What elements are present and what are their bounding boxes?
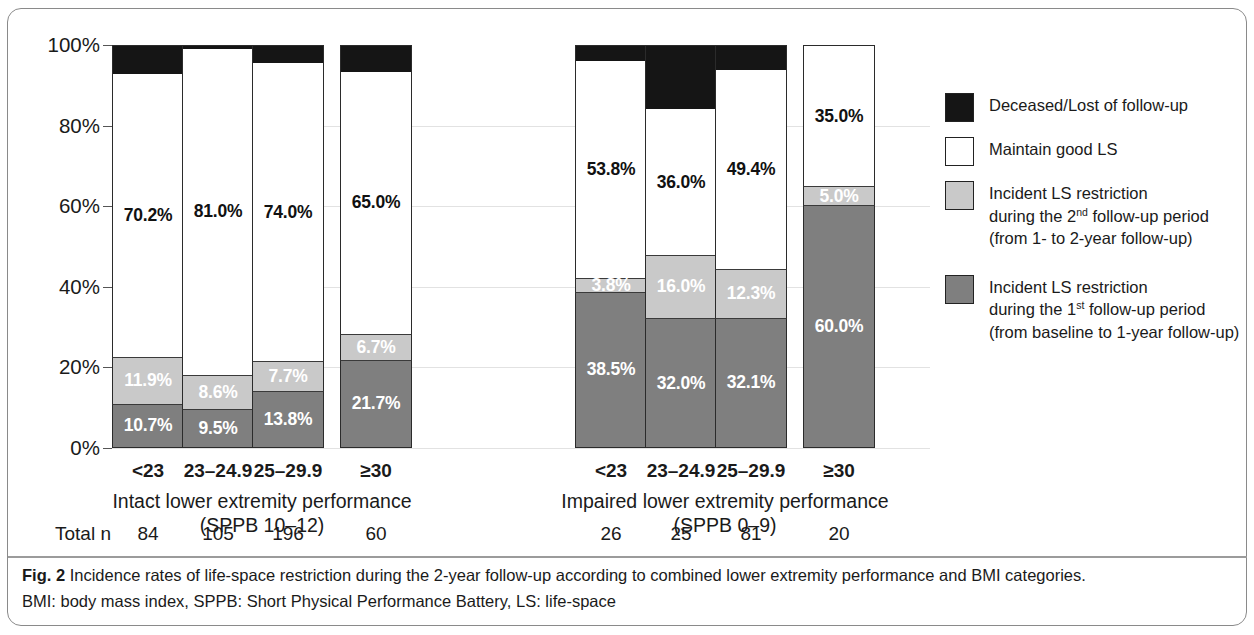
stacked-bar: 38.5%3.8%53.8% bbox=[575, 45, 647, 448]
bar-segment-value-label: 9.5% bbox=[198, 418, 237, 439]
y-axis-tick-label: 80% bbox=[22, 116, 100, 137]
legend-label: Incident LS restrictionduring the 2nd fo… bbox=[989, 180, 1209, 250]
bar-segment-value-label: 7.7% bbox=[268, 366, 307, 387]
caption-abbreviations: BMI: body mass index, SPPB: Short Physic… bbox=[22, 589, 1232, 615]
totals-row: Total n 841051966026258120 bbox=[0, 519, 1254, 553]
bar-segment-value-label: 11.9% bbox=[124, 370, 172, 391]
total-n-value: 60 bbox=[326, 523, 426, 545]
stacked-bar: 60.0%5.0%35.0% bbox=[803, 45, 875, 448]
bar-segment-value-label: 10.7% bbox=[124, 415, 173, 436]
stacked-bar: 9.5%8.6%81.0% bbox=[182, 45, 254, 448]
legend-label-line: (from 1- to 2-year follow-up) bbox=[989, 227, 1209, 250]
caption-line-1: Fig. 2 Incidence rates of life-space res… bbox=[22, 563, 1232, 589]
stacked-bar: 10.7%11.9%70.2% bbox=[112, 45, 184, 448]
figure-page: 100%80%60%40%20%0% 10.7%11.9%70.2%9.5%8.… bbox=[0, 0, 1254, 635]
legend-item: Incident LS restrictionduring the 2nd fo… bbox=[945, 180, 1245, 250]
bar-segment-value-label: 53.8% bbox=[587, 159, 636, 180]
bar-segment-white: 65.0% bbox=[340, 72, 412, 334]
bar-segment-lgray: 8.6% bbox=[182, 375, 254, 410]
chart-legend: Deceased/Lost of follow-upMaintain good … bbox=[945, 92, 1245, 358]
bar-segment-value-label: 65.0% bbox=[352, 192, 401, 213]
bar-segment-dgray: 60.0% bbox=[803, 206, 875, 448]
bar-segment-white: 49.4% bbox=[715, 70, 787, 269]
bar-segment-white: 81.0% bbox=[182, 49, 254, 375]
bar-segment-value-label: 12.3% bbox=[727, 283, 776, 304]
legend-swatch-incident-2nd-period bbox=[945, 181, 974, 210]
group-title: Intact lower extremity performance bbox=[72, 490, 452, 514]
legend-label: Maintain good LS bbox=[989, 136, 1117, 161]
legend-ordinal-suffix: nd bbox=[1076, 205, 1088, 217]
legend-label-line: (from baseline to 1-year follow-up) bbox=[989, 321, 1239, 344]
bar-segment-value-label: 49.4% bbox=[727, 159, 776, 180]
bar-segment-white: 70.2% bbox=[112, 74, 184, 357]
bar-segment-value-label: 21.7% bbox=[352, 393, 401, 414]
legend-label: Incident LS restrictionduring the 1st fo… bbox=[989, 274, 1239, 344]
legend-label-line: during the 2nd follow-up period bbox=[989, 205, 1209, 228]
legend-item: Incident LS restrictionduring the 1st fo… bbox=[945, 274, 1245, 344]
gridline bbox=[112, 448, 930, 449]
bar-segment-dgray: 21.7% bbox=[340, 361, 412, 448]
stacked-bar: 32.0%16.0%36.0% bbox=[645, 45, 717, 448]
bar-segment-value-label: 36.0% bbox=[657, 172, 706, 193]
bar-segment-value-label: 5.0% bbox=[819, 186, 858, 207]
bar-segment-lgray: 16.0% bbox=[645, 255, 717, 319]
caption-text: Incidence rates of life-space restrictio… bbox=[65, 566, 1086, 584]
bar-segment-dgray: 38.5% bbox=[575, 293, 647, 448]
caption-figure-number: Fig. 2 bbox=[22, 566, 65, 584]
bar-segment-value-label: 74.0% bbox=[264, 202, 313, 223]
bar-segment-white: 35.0% bbox=[803, 45, 875, 186]
legend-ordinal-suffix: st bbox=[1076, 299, 1084, 311]
total-n-value: 20 bbox=[789, 523, 889, 545]
bar-segment-lgray: 5.0% bbox=[803, 186, 875, 206]
bar-segment-dgray: 10.7% bbox=[112, 405, 184, 448]
bar-segment-value-label: 60.0% bbox=[815, 316, 864, 337]
bar-segment-value-label: 16.0% bbox=[657, 276, 706, 297]
bar-segment-value-label: 81.0% bbox=[194, 201, 243, 222]
bar-segment-dgray: 13.8% bbox=[252, 392, 324, 448]
bar-segment-value-label: 6.7% bbox=[356, 337, 395, 358]
x-axis-category-label: ≥30 bbox=[789, 460, 889, 482]
bar-segment-white: 53.8% bbox=[575, 61, 647, 278]
caption-divider bbox=[8, 556, 1247, 558]
y-axis-tick-label: 100% bbox=[22, 35, 100, 56]
bar-segment-lgray: 3.8% bbox=[575, 278, 647, 293]
stacked-bar: 32.1%12.3%49.4% bbox=[715, 45, 787, 448]
bar-segment-white: 36.0% bbox=[645, 109, 717, 254]
bar-segment-dgray: 32.0% bbox=[645, 319, 717, 448]
bar-segment-black bbox=[645, 45, 717, 109]
bar-segment-black bbox=[252, 45, 324, 63]
y-axis-tick-label: 20% bbox=[22, 357, 100, 378]
bar-segment-dgray: 9.5% bbox=[182, 410, 254, 448]
bar-segment-dgray: 32.1% bbox=[715, 319, 787, 448]
stacked-bar: 21.7%6.7%65.0% bbox=[340, 45, 412, 448]
legend-swatch-maintain-good-ls bbox=[945, 137, 974, 166]
x-axis-category-label: ≥30 bbox=[326, 460, 426, 482]
bar-segment-value-label: 13.8% bbox=[264, 409, 313, 430]
total-n-value: 196 bbox=[238, 523, 338, 545]
bar-segment-value-label: 32.1% bbox=[727, 372, 776, 393]
legend-label-line: Maintain good LS bbox=[989, 138, 1117, 161]
bar-segment-black bbox=[112, 45, 184, 74]
bar-segment-value-label: 3.8% bbox=[591, 275, 630, 296]
bar-segment-value-label: 38.5% bbox=[587, 359, 636, 380]
y-axis-tick-label: 0% bbox=[22, 438, 100, 459]
legend-label-line: Deceased/Lost of follow-up bbox=[989, 94, 1188, 117]
bar-segment-black bbox=[340, 45, 412, 72]
legend-swatch-incident-1st-period bbox=[945, 275, 974, 304]
bar-segment-value-label: 35.0% bbox=[815, 106, 864, 127]
group-title: Impaired lower extremity performance bbox=[535, 490, 915, 514]
bar-segment-black bbox=[575, 45, 647, 61]
bar-segment-black bbox=[182, 45, 254, 49]
bar-segment-lgray: 7.7% bbox=[252, 361, 324, 392]
legend-label-line: during the 1st follow-up period bbox=[989, 298, 1239, 321]
x-axis-category-label: 25–29.9 bbox=[701, 460, 801, 482]
legend-label: Deceased/Lost of follow-up bbox=[989, 92, 1188, 117]
bar-segment-lgray: 11.9% bbox=[112, 357, 184, 405]
bar-segment-white: 74.0% bbox=[252, 63, 324, 361]
bar-segment-black bbox=[715, 45, 787, 70]
x-axis-category-label: 25–29.9 bbox=[238, 460, 338, 482]
stacked-bar: 13.8%7.7%74.0% bbox=[252, 45, 324, 448]
legend-swatch-deceased bbox=[945, 93, 974, 122]
legend-label-line: Incident LS restriction bbox=[989, 276, 1239, 299]
bar-segment-value-label: 70.2% bbox=[124, 205, 173, 226]
